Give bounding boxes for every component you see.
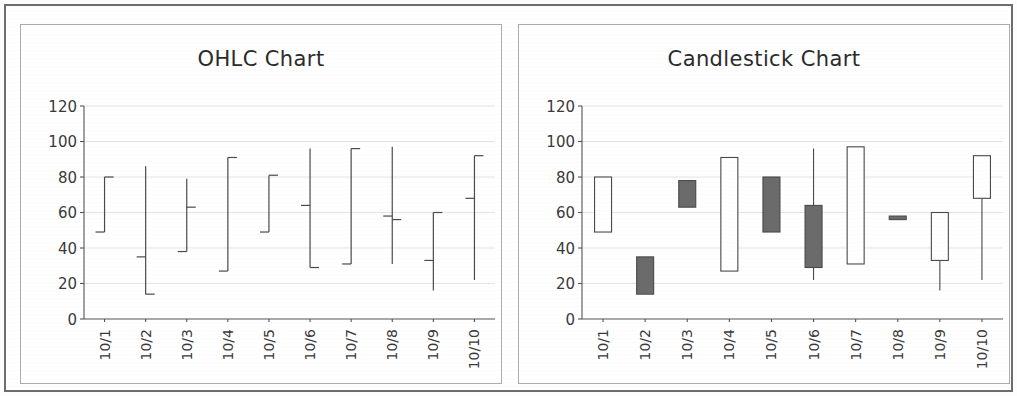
ohlc-bar <box>424 213 442 291</box>
y-tick-label: 0 <box>67 311 77 329</box>
candle-body <box>973 156 990 199</box>
y-tick-label: 20 <box>556 275 575 293</box>
ohlc-bar <box>96 177 114 232</box>
x-tick-label: 10/8 <box>890 329 906 360</box>
x-tick-label: 10/7 <box>343 329 359 360</box>
chart-panel-candlestick: Candlestick Chart 02040608010012010/110/… <box>518 24 1010 384</box>
x-tick-label: 10/3 <box>179 329 195 360</box>
y-tick-label: 0 <box>565 311 575 329</box>
x-tick-label: 10/6 <box>806 329 822 361</box>
candle-body <box>595 177 612 232</box>
candlestick <box>679 181 696 208</box>
y-tick-label: 100 <box>48 133 77 151</box>
ohlc-bar <box>219 157 237 271</box>
document-frame: OHLC Chart 02040608010012010/110/210/310… <box>4 4 1013 392</box>
x-tick-label: 10/1 <box>97 329 113 360</box>
candle-body <box>931 213 948 261</box>
candlestick <box>763 177 780 232</box>
candle-body <box>721 157 738 271</box>
ohlc-bar <box>178 179 196 252</box>
candlestick <box>595 177 612 232</box>
plot-area-candlestick: 02040608010012010/110/210/310/410/510/61… <box>519 25 1009 383</box>
ohlc-bar <box>260 175 278 232</box>
ohlc-bar <box>342 149 360 264</box>
screenshot-root: OHLC Chart 02040608010012010/110/210/310… <box>0 0 1017 396</box>
x-tick-label: 10/9 <box>932 329 948 360</box>
y-tick-label: 120 <box>48 98 77 116</box>
x-tick-label: 10/5 <box>763 329 779 360</box>
x-tick-label: 10/4 <box>721 329 737 361</box>
candle-body <box>847 147 864 264</box>
candlestick <box>721 157 738 271</box>
x-tick-label: 10/7 <box>848 329 864 360</box>
x-tick-label: 10/6 <box>302 329 318 361</box>
ohlc-bar <box>383 147 401 264</box>
x-tick-label: 10/8 <box>384 329 400 360</box>
y-tick-label: 60 <box>58 204 77 222</box>
chart-panel-ohlc: OHLC Chart 02040608010012010/110/210/310… <box>20 24 502 384</box>
y-tick-label: 80 <box>58 169 77 187</box>
x-tick-label: 10/9 <box>425 329 441 360</box>
candlestick <box>637 257 654 294</box>
y-tick-label: 60 <box>556 204 575 222</box>
candle-body <box>805 205 822 267</box>
candle-body <box>679 181 696 208</box>
candlestick <box>973 156 990 280</box>
x-tick-label: 10/1 <box>595 329 611 360</box>
x-tick-label: 10/10 <box>466 329 482 369</box>
ohlc-chart-svg: 02040608010012010/110/210/310/410/510/61… <box>21 25 503 385</box>
x-tick-label: 10/5 <box>261 329 277 360</box>
candlestick <box>889 216 906 220</box>
y-tick-label: 100 <box>546 133 575 151</box>
ohlc-bar <box>137 166 155 294</box>
y-tick-label: 20 <box>58 275 77 293</box>
x-tick-label: 10/4 <box>220 329 236 361</box>
candlestick <box>805 149 822 280</box>
x-tick-label: 10/3 <box>679 329 695 360</box>
candle-body <box>763 177 780 232</box>
y-tick-label: 40 <box>58 240 77 258</box>
ohlc-bar <box>465 156 483 280</box>
y-tick-label: 120 <box>546 98 575 116</box>
candlestick-chart-svg: 02040608010012010/110/210/310/410/510/61… <box>519 25 1011 385</box>
x-tick-label: 10/2 <box>138 329 154 360</box>
x-tick-label: 10/2 <box>637 329 653 360</box>
candlestick <box>847 147 864 264</box>
x-tick-label: 10/10 <box>974 329 990 369</box>
y-tick-label: 80 <box>556 169 575 187</box>
candlestick <box>931 213 948 291</box>
ohlc-bar <box>301 149 319 268</box>
plot-area-ohlc: 02040608010012010/110/210/310/410/510/61… <box>21 25 501 383</box>
candle-body <box>889 216 906 220</box>
candle-body <box>637 257 654 294</box>
y-tick-label: 40 <box>556 240 575 258</box>
